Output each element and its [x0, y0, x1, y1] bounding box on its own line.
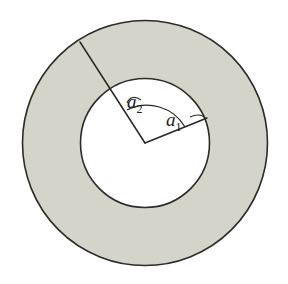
- annulus-figure: Annulus with inner and outer radii a2 a1: [0, 0, 288, 284]
- annulus-diagram: Annulus with inner and outer radii a2 a1: [0, 0, 288, 284]
- inner-radius-label-subscript: 1: [176, 120, 182, 134]
- outer-radius-label-subscript: 2: [137, 102, 143, 116]
- inner-radius-label-base: a: [166, 109, 176, 130]
- outer-radius-label-base: a: [127, 91, 137, 112]
